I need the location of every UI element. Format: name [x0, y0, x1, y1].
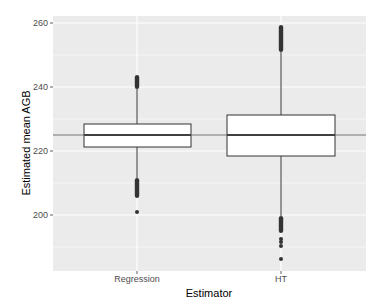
y-tick-220: 220 [33, 146, 48, 156]
y-axis-ticks [50, 23, 53, 215]
y-tick-200: 200 [33, 210, 48, 220]
y-tick-260: 260 [33, 18, 48, 28]
x-axis-title: Estimator [186, 287, 233, 299]
x-tick-regression: Regression [114, 274, 160, 284]
outliers-low [279, 216, 283, 233]
y-axis-title: Estimated mean AGB [20, 90, 32, 195]
x-tick-ht: HT [275, 274, 287, 284]
outliers-low [135, 178, 139, 198]
y-tick-240: 240 [33, 82, 48, 92]
boxplot-chart: 260 240 220 200 Regression HT Estimator … [0, 0, 381, 308]
outliers-high [135, 75, 139, 89]
outliers-high [279, 25, 283, 52]
